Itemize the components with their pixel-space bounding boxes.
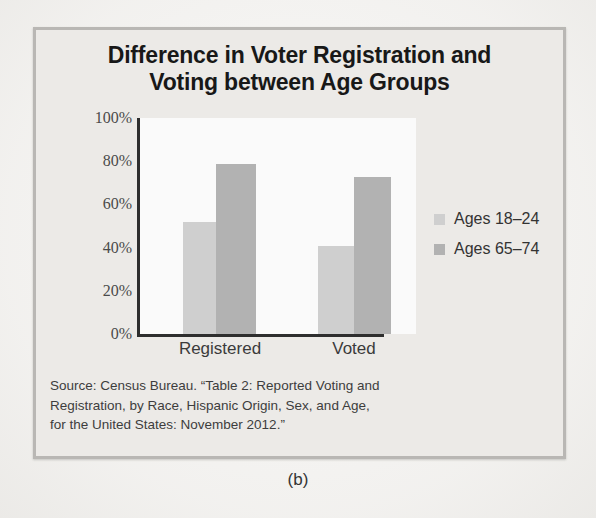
legend-label-ages-65-74: Ages 65–74	[454, 240, 539, 258]
x-axis-tick-labels: Registered Voted	[138, 339, 416, 367]
bar-registered-ages-65-74	[216, 164, 256, 335]
y-tick-label-80: 80%	[40, 152, 132, 170]
x-tick-label-voted: Voted	[332, 339, 376, 359]
bar-voted-ages-65-74	[354, 177, 391, 335]
x-tick-label-registered: Registered	[179, 339, 261, 359]
chart-legend: Ages 18–24 Ages 65–74	[434, 210, 564, 270]
y-tick-label-100: 100%	[40, 109, 132, 127]
bar-registered-ages-18-24	[183, 222, 216, 334]
source-note: Source: Census Bureau. “Table 2: Reporte…	[50, 376, 549, 435]
chart-title-line-1: Difference in Voter Registration and	[62, 42, 537, 69]
legend-item-ages-65-74: Ages 65–74	[434, 240, 564, 258]
bar-voted-ages-18-24	[318, 246, 354, 335]
legend-item-ages-18-24: Ages 18–24	[434, 210, 564, 228]
y-tick-label-20: 20%	[40, 282, 132, 300]
bar-series-layer	[138, 118, 416, 334]
figure-card: Difference in Voter Registration and Vot…	[33, 27, 566, 459]
y-tick-label-40: 40%	[40, 239, 132, 257]
chart-title: Difference in Voter Registration and Vot…	[62, 42, 537, 96]
y-tick-label-60: 60%	[40, 195, 132, 213]
legend-swatch-icon-ages-65-74	[434, 244, 445, 255]
source-note-line-3: for the United States: November 2012.”	[50, 415, 549, 435]
figure-caption: (b)	[0, 470, 596, 490]
source-note-line-2: Registration, by Race, Hispanic Origin, …	[50, 396, 549, 416]
source-note-line-1: Source: Census Bureau. “Table 2: Reporte…	[50, 376, 549, 396]
y-tick-label-0: 0%	[40, 325, 132, 343]
legend-label-ages-18-24: Ages 18–24	[454, 210, 539, 228]
chart-plot-area: 100% 80% 60% 40% 20% 0% Registered Voted…	[36, 100, 563, 368]
y-axis-tick-labels: 100% 80% 60% 40% 20% 0%	[36, 100, 132, 368]
chart-title-line-2: Voting between Age Groups	[62, 69, 537, 96]
x-axis-line	[137, 334, 384, 337]
legend-swatch-icon-ages-18-24	[434, 214, 445, 225]
